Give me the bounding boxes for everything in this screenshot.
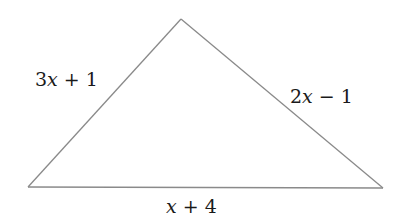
variable: x: [302, 85, 313, 107]
coefficient: 2: [290, 85, 302, 107]
coefficient: 3: [35, 68, 47, 90]
side-label-right: 2x − 1: [290, 87, 353, 106]
constant-term: + 1: [58, 68, 98, 90]
side-bottom: [28, 187, 383, 188]
constant-term: + 4: [177, 195, 217, 217]
variable: x: [47, 68, 58, 90]
constant-term: − 1: [313, 85, 353, 107]
triangle-diagram: [0, 0, 402, 222]
side-left: [28, 19, 181, 187]
side-label-bottom: x + 4: [166, 197, 217, 216]
variable: x: [166, 195, 177, 217]
side-label-left: 3x + 1: [35, 70, 98, 89]
